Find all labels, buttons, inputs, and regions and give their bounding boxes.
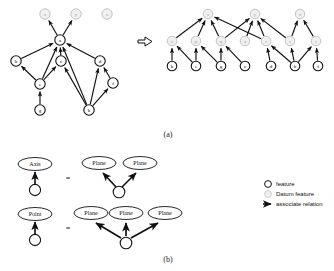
node-c-feature: c	[56, 56, 66, 66]
left-graph-nodes: xyzabcdefgh	[11, 9, 118, 115]
axis-plane-arrow-2	[122, 173, 136, 187]
edge-q-to-rx	[211, 20, 219, 36]
node-e-feature: e	[35, 79, 45, 89]
axis-equals-sign: =	[66, 174, 71, 183]
node-b-feature: b	[167, 61, 177, 71]
transform-arrow-icon	[138, 37, 152, 46]
node-label-s: s	[289, 39, 291, 44]
node-o-datum: o	[167, 36, 177, 46]
edge-a-to-x	[49, 21, 57, 35]
caption-a: (a)	[164, 130, 173, 139]
axis-plane-label-2: Plane	[133, 160, 147, 166]
axis-plane-arrow-1	[103, 173, 116, 187]
node-h-feature: h	[84, 105, 94, 115]
node-g-feature: g	[216, 61, 226, 71]
edge-h-to-c	[65, 68, 86, 105]
edge-p-to-rx	[198, 21, 205, 36]
point-feature-node	[29, 234, 40, 245]
edge-rh-to-r	[271, 46, 290, 63]
edge-a-to-y	[63, 20, 72, 35]
point-pill-label: Point	[29, 211, 42, 217]
node-x-datum: x	[40, 9, 50, 19]
axis-equivalence-left: Axis	[18, 158, 52, 196]
axis-decomposed-feature-node	[113, 186, 125, 198]
edge-re-to-o	[177, 46, 192, 62]
point-equivalence-left: Point	[18, 208, 52, 246]
edge-rd-to-r	[267, 48, 270, 61]
node-z-datum: z	[102, 9, 112, 19]
node-z-datum: z	[295, 9, 305, 19]
legend-label-associate-relation: associate relation	[276, 201, 323, 207]
node-h-feature: h	[290, 61, 300, 71]
node-d-feature: d	[95, 56, 105, 66]
edge-h-to-d	[90, 68, 98, 104]
edge-rc-to-q	[226, 46, 241, 62]
node-x-datum: x	[203, 9, 213, 19]
node-e-feature: e	[191, 61, 201, 71]
axis-plane-label-1: Plane	[92, 160, 106, 166]
point-plane-label-2: Plane	[119, 210, 133, 216]
edge-q-to-ry	[225, 18, 249, 37]
node-q-datum: q	[216, 36, 226, 46]
node-c-feature: c	[240, 61, 250, 71]
point-plane-arrow-1	[96, 223, 121, 238]
edge-t-to-rz	[304, 20, 314, 36]
node-s-datum: s	[285, 36, 295, 46]
node-a-datum: a	[240, 36, 250, 46]
edge-f-to-d	[104, 68, 110, 78]
node-y-datum: y	[250, 9, 260, 19]
edge-d-to-a	[67, 44, 95, 59]
edge-b-to-a	[21, 43, 53, 58]
legend-label-datum-feature: Datum feature	[276, 191, 315, 197]
node-b-feature: b	[11, 56, 21, 66]
point-plane-label-1: Plane	[84, 210, 98, 216]
datum-feature-circle-icon	[265, 191, 272, 198]
edge-rh-to-t	[298, 47, 311, 62]
node-a-feature: a	[55, 35, 65, 45]
figure-root: xyzabcdefgh xyzopqarstbegcdhf (a) Axis =…	[0, 0, 334, 271]
point-equals-sign: =	[66, 224, 71, 233]
edge-rf-to-t	[317, 48, 318, 60]
point-plane-label-3: Plane	[158, 210, 172, 216]
legend-label-feature: feature	[276, 181, 295, 187]
figure-canvas: xyzabcdefgh xyzopqarstbegcdhf (a) Axis =…	[0, 0, 334, 271]
legend: feature Datum feature associate relation	[263, 181, 323, 207]
axis-feature-node	[29, 184, 40, 195]
feature-circle-icon	[265, 181, 272, 188]
node-f-feature: f	[108, 78, 118, 88]
node-t-datum: t	[311, 36, 321, 46]
edge-h-to-a	[63, 47, 87, 105]
edge-r-to-ry	[258, 21, 264, 36]
axis-pill-label: Axis	[29, 161, 41, 167]
node-y-datum: y	[71, 9, 81, 19]
edge-e-to-b	[21, 66, 35, 80]
node-d-feature: d	[266, 61, 276, 71]
edge-rh-to-s	[291, 48, 294, 61]
point-equivalence-right: Plane Plane Plane	[74, 207, 182, 249]
edge-s-to-ry	[261, 18, 286, 37]
node-f-feature: f	[313, 61, 323, 71]
edge-e-to-c	[44, 67, 56, 80]
point-decomposed-feature-node	[120, 237, 132, 249]
node-p-datum: p	[191, 36, 201, 46]
point-plane-arrow-3	[131, 223, 158, 238]
axis-equivalence-right: Plane Plane	[82, 157, 157, 198]
edge-s-to-rz	[292, 21, 298, 36]
node-r-datum: r	[261, 36, 271, 46]
edge-rg-to-p	[201, 46, 217, 62]
edge-h-to-f	[93, 89, 108, 106]
node-g-feature: g	[35, 105, 45, 115]
caption-b: (b)	[163, 255, 173, 264]
